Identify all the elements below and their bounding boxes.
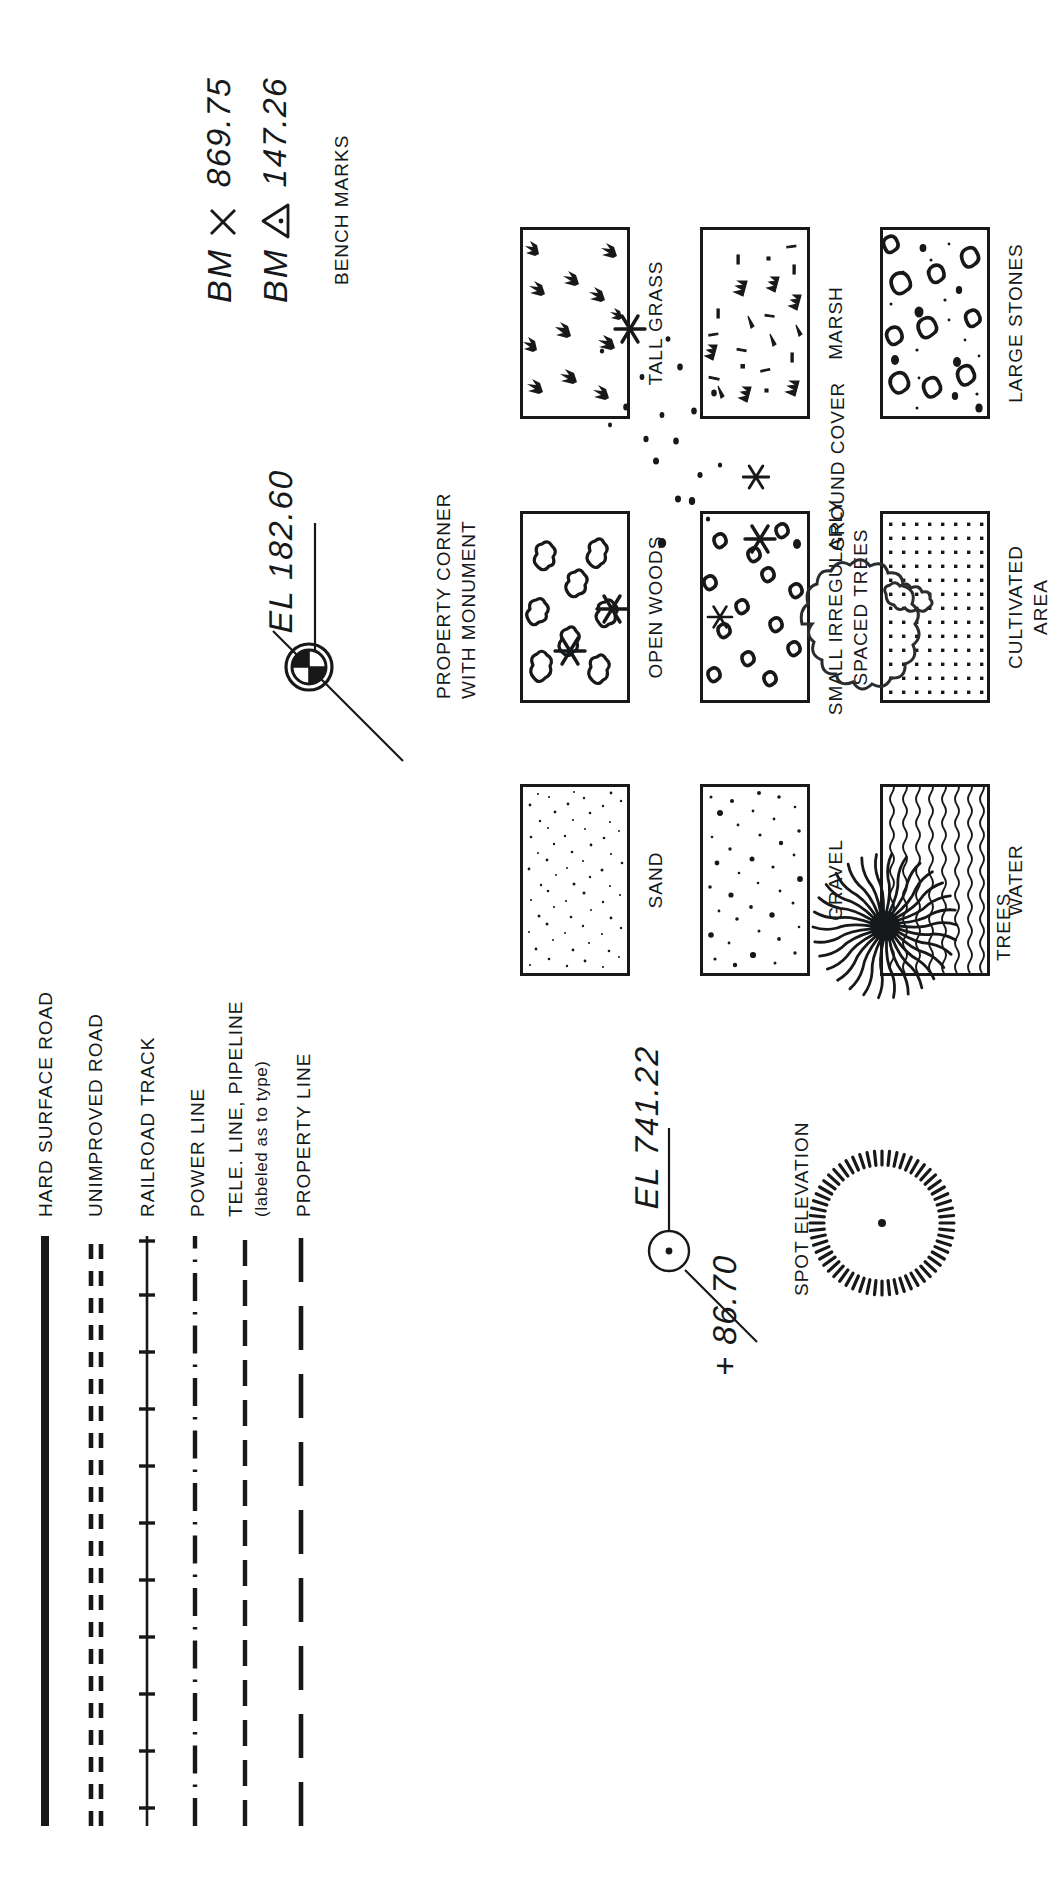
cloud-blobs-fill bbox=[523, 514, 627, 700]
bench-mark-prefix-1: BM bbox=[200, 248, 239, 303]
tree-conifer-ring-symbol bbox=[792, 1133, 972, 1313]
dot-grid-fill bbox=[883, 514, 987, 700]
area-symbol-label-cultivated-area: CULTIVATED AREA bbox=[1004, 545, 1052, 669]
marsh-tufts-fill bbox=[703, 230, 807, 416]
tele-line-pipeline-symbol bbox=[240, 1236, 250, 1826]
area-panel-tall-grass bbox=[520, 227, 630, 419]
hard-surface-road-symbol bbox=[38, 1236, 52, 1826]
bench-mark-value-2: 147.26 bbox=[256, 76, 294, 187]
line-symbol-label-railroad-track: RAILROAD TRACK bbox=[136, 1037, 161, 1217]
area-panel-marsh bbox=[700, 227, 810, 419]
area-panel-sand bbox=[520, 784, 630, 976]
area-symbol-label-large-stones: LARGE STONES bbox=[1004, 243, 1029, 402]
fine-stipple-fill bbox=[523, 787, 627, 973]
bench-mark-cross-icon bbox=[206, 205, 240, 239]
area-symbol-label-gravel: GRAVEL bbox=[824, 839, 849, 921]
area-symbol-label-marsh: MARSH bbox=[824, 286, 849, 360]
area-panel-large-stones bbox=[880, 227, 990, 419]
stones-fill bbox=[883, 230, 987, 416]
wavy-lines-fill bbox=[883, 787, 987, 973]
label-line-1: CULTIVATED AREA bbox=[1005, 545, 1051, 669]
line-symbol-label-tele-line-pipeline: TELE. LINE, PIPELINE bbox=[224, 1001, 249, 1217]
small-blobs-fill bbox=[703, 514, 807, 700]
property-corner-symbol bbox=[215, 521, 415, 771]
property-line-symbol bbox=[296, 1236, 306, 1826]
area-panel-gravel bbox=[700, 784, 810, 976]
line-symbol-label-hard-surface-road: HARD SURFACE ROAD bbox=[34, 991, 59, 1217]
bench-mark-value-1: 869.75 bbox=[200, 76, 238, 187]
grass-tufts-fill bbox=[523, 230, 627, 416]
property-corner-label: PROPERTY CORNER WITH MONUMENT bbox=[432, 493, 481, 699]
area-symbol-label-sand: SAND bbox=[644, 852, 669, 909]
line-symbol-label-unimproved-road: UNIMPROVED ROAD bbox=[84, 1013, 109, 1217]
area-symbol-label-open-woods: OPEN WOODS bbox=[644, 535, 669, 678]
trees-label: TREES bbox=[992, 893, 1017, 961]
coarse-dots-fill bbox=[703, 787, 807, 973]
bench-mark-prefix-2: BM bbox=[256, 248, 295, 303]
power-line-symbol bbox=[190, 1236, 200, 1826]
spot-elevation-label: SPOT ELEVATION bbox=[790, 1122, 815, 1297]
area-symbol-label-tall-grass: TALL GRASS bbox=[644, 260, 669, 385]
ground-cover-label: GROUND COVER bbox=[826, 382, 851, 551]
spot-elevation-value-el: EL 741.22 bbox=[628, 1045, 666, 1210]
area-panel-small-irregular-trees bbox=[700, 511, 810, 703]
railroad-track-symbol bbox=[136, 1236, 158, 1826]
bench-mark-triangle-icon bbox=[258, 201, 292, 241]
bench-marks-label: BENCH MARKS bbox=[330, 135, 355, 285]
line-symbol-label-property-line: PROPERTY LINE bbox=[292, 1053, 317, 1217]
area-panel-cultivated-area bbox=[880, 511, 990, 703]
area-panel-water bbox=[880, 784, 990, 976]
unimproved-road-symbol bbox=[86, 1236, 106, 1826]
property-corner-value: EL 182.60 bbox=[262, 469, 300, 634]
area-panel-open-woods bbox=[520, 511, 630, 703]
line-symbol-label-power-line: POWER LINE bbox=[186, 1088, 211, 1217]
spot-elevation-value-offset: + 86.70 bbox=[706, 1254, 744, 1377]
line-symbol-sublabel-tele-line-pipeline: (labeled as to type) bbox=[251, 1060, 273, 1217]
